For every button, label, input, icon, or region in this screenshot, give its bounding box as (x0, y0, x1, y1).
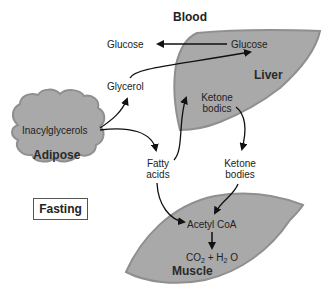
liver-label: Liver (254, 70, 283, 81)
blood-title: Blood (173, 12, 207, 23)
liver-ketone-line2: bodics (197, 103, 237, 114)
liver-ketone-line1: Ketone (197, 92, 237, 103)
muscle-shape (126, 194, 303, 283)
acetyl-coa-label: Acetyl CoA (187, 219, 236, 230)
adipose-label: Adipose (33, 150, 80, 161)
arrow-tag-to-fatty-acids (100, 129, 156, 150)
fatty-acids-line2: acids (140, 169, 176, 180)
fatty-acids-label: Fatty acids (140, 158, 176, 180)
h2o-text: H (216, 252, 223, 263)
blood-glucose-label: Glucose (107, 39, 144, 50)
fasting-label-box: Fasting (33, 198, 88, 220)
blood-ketone-line2: bodies (220, 169, 260, 180)
muscle-label: Muscle (172, 266, 213, 277)
blood-ketone-line1: Ketone (220, 158, 260, 169)
plus-sign: + (205, 252, 216, 263)
fatty-acids-line1: Fatty (140, 158, 176, 169)
liver-ketone-bodies-label: Ketone bodics (197, 92, 237, 114)
liver-glucose-label: Glucose (231, 39, 268, 50)
h2o-suffix: O (227, 252, 238, 263)
co2-h2o-label: CO2 + H2 O (186, 252, 238, 263)
fasting-label: Fasting (39, 202, 82, 216)
co2-text: CO (186, 252, 201, 263)
glycerol-label: Glycerol (107, 81, 144, 92)
triacylglycerols-label: Inacylglycerols (22, 125, 88, 136)
blood-ketone-bodies-label: Ketone bodies (220, 158, 260, 180)
